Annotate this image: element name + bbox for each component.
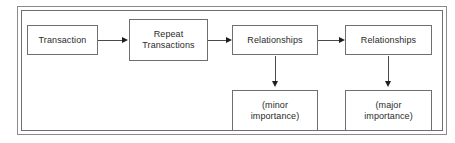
- node-relationships-major-label: Relationships: [361, 35, 416, 46]
- node-transaction[interactable]: Transaction: [27, 25, 98, 55]
- node-relationships-minor-label: Relationships: [247, 35, 302, 46]
- arrow-right-icon: [122, 37, 128, 43]
- edge-relationships-major-to-major-importance: [388, 56, 389, 82]
- node-relationships-minor[interactable]: Relationships: [232, 25, 318, 55]
- node-repeat-transactions[interactable]: Repeat Transactions: [129, 19, 208, 61]
- edge-repeat-transactions-to-relationships-minor: [208, 40, 226, 41]
- edge-transaction-to-repeat-transactions: [98, 40, 123, 41]
- node-relationships-major[interactable]: Relationships: [345, 25, 432, 55]
- node-repeat-transactions-label: Repeat Transactions: [142, 29, 194, 51]
- node-minor-importance-label: (minor importance): [251, 100, 300, 122]
- arrow-down-icon: [272, 81, 278, 87]
- node-transaction-label: Transaction: [39, 35, 87, 46]
- arrow-down-icon: [385, 81, 391, 87]
- flow-diagram: Transaction Repeat Transactions Relation…: [0, 0, 455, 143]
- arrow-right-icon: [226, 37, 232, 43]
- arrow-right-icon: [339, 37, 345, 43]
- node-major-importance-label: (major importance): [364, 100, 413, 122]
- node-minor-importance[interactable]: (minor importance): [232, 90, 318, 131]
- edge-relationships-minor-to-relationships-major: [318, 40, 339, 41]
- edge-relationships-minor-to-minor-importance: [275, 56, 276, 82]
- node-major-importance[interactable]: (major importance): [345, 90, 432, 131]
